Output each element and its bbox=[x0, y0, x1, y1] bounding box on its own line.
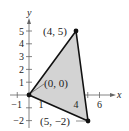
label-5-m2: (5, −2) bbox=[40, 115, 70, 128]
ytick-1: 1 bbox=[19, 77, 24, 88]
ytick-2: 2 bbox=[19, 64, 24, 75]
ytick-5: 5 bbox=[19, 26, 24, 37]
ytick-m1: −1 bbox=[11, 99, 22, 110]
x-axis-label: x bbox=[116, 89, 122, 100]
vertex-5-m2 bbox=[86, 119, 91, 124]
y-axis-label: y bbox=[26, 7, 32, 18]
vertex-4-5 bbox=[74, 29, 79, 34]
y-tick-labels: 5 4 3 2 1 −1 −2 bbox=[11, 26, 24, 127]
xtick-4: 4 bbox=[74, 99, 79, 110]
label-origin: (0, 0) bbox=[44, 77, 68, 90]
ytick-m2: −2 bbox=[13, 115, 24, 126]
xtick-6: 6 bbox=[97, 99, 102, 110]
vertex-origin bbox=[27, 93, 32, 98]
y-axis-arrow-icon bbox=[27, 18, 31, 24]
ytick-4: 4 bbox=[19, 38, 24, 49]
x-axis-arrow-icon bbox=[110, 93, 116, 97]
xtick-1: 1 bbox=[39, 99, 44, 110]
coordinate-plane-figure: y x 5 4 3 2 1 −1 −2 1 4 6 (4, 5) (0, 0) … bbox=[0, 0, 129, 131]
label-4-5: (4, 5) bbox=[43, 25, 67, 38]
ytick-3: 3 bbox=[19, 51, 24, 62]
